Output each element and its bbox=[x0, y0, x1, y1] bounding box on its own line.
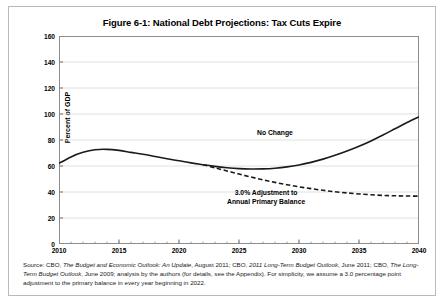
y-tick-140: 140 bbox=[44, 59, 55, 66]
plot-area: Percent of GDP 020406080100120140160 201… bbox=[59, 36, 419, 244]
source-italic-2: 2011 Long-Term Budget Outlook bbox=[249, 261, 338, 268]
x-tick-2040: 2040 bbox=[412, 247, 427, 254]
annotation-adjustment-line1: 3.0% Adjustment to bbox=[227, 188, 305, 197]
source-note: Source: CBO, The Budget and Economic Out… bbox=[23, 261, 427, 288]
annotation-no-change-text: No Change bbox=[257, 129, 293, 136]
y-tick-120: 120 bbox=[44, 85, 55, 92]
figure-frame: Figure 6-1: National Debt Projections: T… bbox=[8, 6, 436, 296]
y-tick-40: 40 bbox=[48, 189, 55, 196]
annotation-adjustment-line2: Annual Primary Balance bbox=[227, 197, 305, 206]
x-tick-2025: 2025 bbox=[232, 247, 247, 254]
source-mid-1: , August 2011; CBO, bbox=[191, 261, 249, 268]
chart-plot-svg bbox=[59, 36, 419, 244]
y-tick-80: 80 bbox=[48, 137, 55, 144]
x-tick-2015: 2015 bbox=[112, 247, 127, 254]
source-prefix-1: Source: CBO, bbox=[23, 261, 63, 268]
source-prefix-2: June 2011; CBO, bbox=[342, 261, 391, 268]
x-tick-2030: 2030 bbox=[292, 247, 307, 254]
x-tick-2010: 2010 bbox=[52, 247, 67, 254]
annotation-no-change: No Change bbox=[257, 128, 293, 137]
x-tick-2035: 2035 bbox=[352, 247, 367, 254]
y-tick-60: 60 bbox=[48, 163, 55, 170]
y-tick-20: 20 bbox=[48, 215, 55, 222]
source-mid-2: , bbox=[338, 261, 340, 268]
x-tick-2020: 2020 bbox=[172, 247, 187, 254]
annotation-adjustment: 3.0% Adjustment to Annual Primary Balanc… bbox=[227, 188, 305, 206]
y-tick-100: 100 bbox=[44, 111, 55, 118]
source-italic-1: The Budget and Economic Outlook: An Upda… bbox=[63, 261, 191, 268]
chart-title: Figure 6-1: National Debt Projections: T… bbox=[9, 17, 435, 28]
y-tick-160: 160 bbox=[44, 33, 55, 40]
series-line-no-change bbox=[59, 117, 419, 169]
source-mid-3: , June 2009; analysis by the authors (fo… bbox=[81, 270, 265, 277]
